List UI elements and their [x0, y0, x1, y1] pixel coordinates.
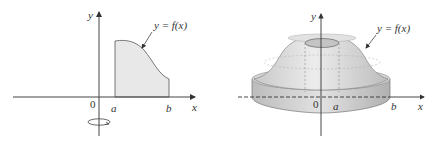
curve-label-pointer: [366, 35, 376, 48]
curve-label: y = f(x): [153, 19, 187, 32]
curve-label-pointer: [142, 32, 152, 48]
x-axis-label: x: [417, 100, 423, 112]
y-axis-label: y: [87, 9, 93, 21]
b-label: b: [391, 100, 397, 112]
diagram-canvas: y x 0 a b y = f(x) y x 0: [0, 0, 434, 143]
curve-label: y = f(x): [376, 22, 410, 35]
x-axis-label: x: [191, 101, 197, 113]
shaded-region: [115, 40, 169, 97]
origin-label: 0: [313, 98, 319, 110]
origin-label: 0: [90, 98, 96, 110]
right-figure: y x 0 a b y = f(x): [238, 10, 424, 136]
inner-hole-top: [305, 39, 339, 48]
a-label: a: [333, 100, 339, 112]
left-figure: y x 0 a b y = f(x): [13, 9, 197, 136]
y-axis-label: y: [310, 10, 316, 22]
a-label: a: [111, 102, 117, 114]
b-label: b: [166, 102, 172, 114]
